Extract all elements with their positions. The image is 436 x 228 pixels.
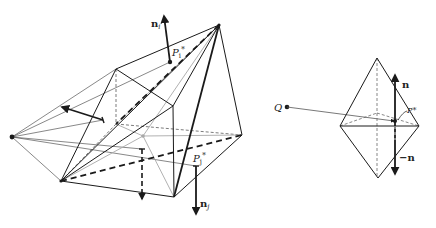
viewpoint-dot [10, 135, 15, 140]
centroid-point [141, 134, 145, 138]
ray-q-to-p [287, 107, 394, 121]
arrow-tail-tick [102, 117, 104, 123]
label-p-i-star: Pi* [171, 45, 185, 60]
label-n-i: ni [151, 18, 161, 31]
label-n: n [402, 79, 410, 90]
vertex-dot-bottom-left [59, 179, 62, 182]
label-neg-n: −n [399, 152, 415, 163]
left-polyhedron-figure: ni Pi* Pj* nj [10, 16, 242, 214]
dashed-diagonals [61, 25, 242, 181]
normal-arrow-n-i [164, 16, 170, 62]
right-bipyramid-figure: Q n −n P* [274, 58, 419, 178]
p-star-leader [398, 111, 407, 120]
visible-edges [61, 25, 242, 197]
diagram-canvas: ni Pi* Pj* nj Q [0, 0, 436, 228]
label-q: Q [274, 102, 282, 113]
vertex-dot-apex [217, 23, 220, 26]
label-p-j-star: Pj* [192, 151, 206, 166]
point-p-i [168, 60, 172, 64]
label-n-j: nj [200, 198, 210, 211]
interior-gray-lines [61, 25, 242, 197]
point-p-star [393, 119, 397, 123]
label-p-star: P* [406, 106, 416, 115]
